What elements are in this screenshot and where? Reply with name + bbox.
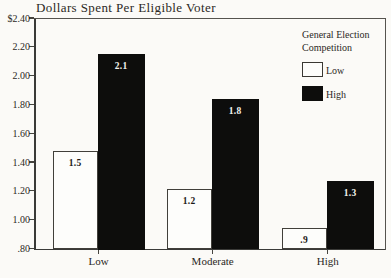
plot-border-top [34,18,386,19]
x-tick-mark [212,250,213,254]
x-category-label: High [286,255,370,267]
y-tick-label: $2.40 [0,13,30,24]
legend-label-low: Low [326,65,344,77]
x-category-label: Low [57,255,141,267]
bar-value-label: 1.5 [53,158,98,168]
y-tick-label: 1.20 [0,185,30,196]
bar-value-label: 1.2 [167,196,212,206]
y-tick-label: 1.00 [0,214,30,225]
legend: General Election Competition Low High [302,29,388,101]
chart-title: Dollars Spent Per Eligible Voter [36,0,216,16]
chart-figure: Dollars Spent Per Eligible Voter $2.402.… [0,0,391,278]
y-axis-line [34,18,36,250]
bar-value-label: 1.3 [327,188,374,198]
bar-high-low [98,54,145,249]
x-category-label: Moderate [171,255,255,267]
y-tick-label: 2.00 [0,70,30,81]
y-tick-label: .80 [0,243,30,254]
y-tick-label: 1.40 [0,157,30,168]
legend-swatch-low-icon [302,62,323,77]
legend-item-high: High [302,86,388,101]
bar-value-label: 1.8 [212,106,259,116]
x-tick-mark [327,250,328,254]
legend-title-line1: General Election [302,29,388,42]
legend-label-high: High [326,89,346,101]
x-tick-mark [98,250,99,254]
bar-value-label: .9 [282,235,327,245]
y-tick-label: 2.20 [0,41,30,52]
legend-item-low: Low [302,62,388,77]
bar-value-label: 2.1 [98,61,145,71]
legend-swatch-high-icon [302,86,323,101]
legend-title-line2: Competition [302,42,388,55]
y-tick-label: 1.80 [0,99,30,110]
y-tick-label: 1.60 [0,128,30,139]
bar-high-moderate [212,99,259,250]
